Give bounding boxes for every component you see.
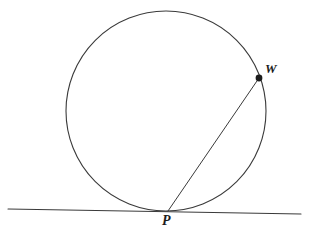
point-p-label: P — [162, 214, 171, 228]
geometry-canvas — [0, 0, 309, 240]
point-w-marker — [256, 75, 263, 82]
tangent-line — [8, 209, 301, 214]
chord-p-w — [168, 78, 259, 211]
geometry-figure: W P — [0, 0, 309, 240]
point-w-label: W — [265, 62, 277, 75]
